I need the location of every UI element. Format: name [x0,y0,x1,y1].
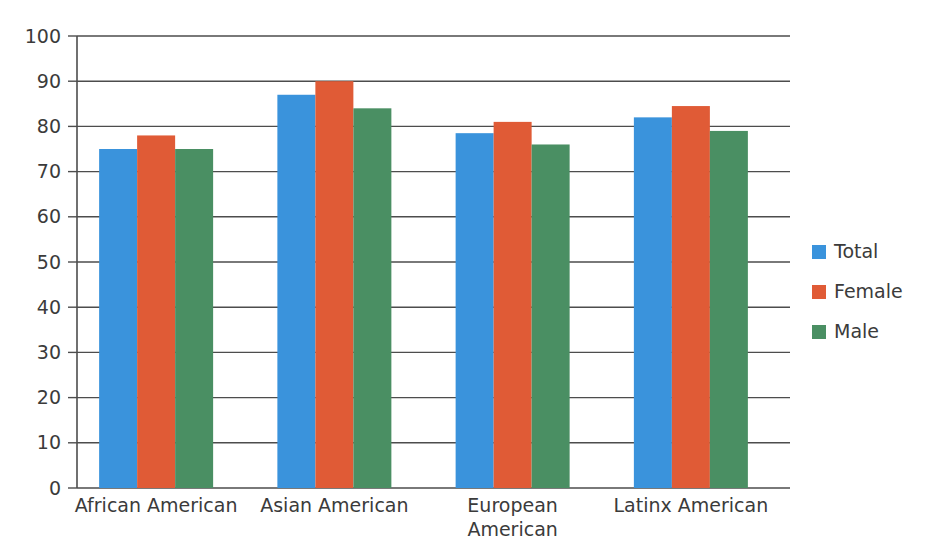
bar-male-0 [175,149,213,488]
y-tick-label: 90 [37,70,61,92]
x-category-label: Latinx American [614,494,769,516]
legend-label-total: Total [833,240,878,262]
bar-total-2 [456,133,494,488]
y-tick-label: 70 [37,160,61,182]
legend-swatch-male [812,325,826,339]
legend-label-female: Female [834,280,903,302]
bar-female-3 [672,106,710,488]
y-axis-tick-labels: 0102030405060708090100 [25,25,61,499]
bar-female-2 [494,122,532,488]
y-tick-label: 60 [37,205,61,227]
bar-male-1 [353,108,391,488]
y-tick-label: 0 [49,477,61,499]
y-tick-label: 80 [37,115,61,137]
chart-legend: TotalFemaleMale [812,240,903,342]
bar-female-1 [315,81,353,488]
bar-total-1 [277,95,315,488]
legend-label-male: Male [834,320,879,342]
x-category-label: African American [75,494,238,516]
bar-male-3 [710,131,748,488]
y-tick-label: 30 [37,341,61,363]
bar-total-3 [634,117,672,488]
chart-canvas: 0102030405060708090100 African AmericanA… [0,0,928,560]
bar-female-0 [137,135,175,488]
y-tick-label: 100 [25,25,61,47]
y-tick-label: 20 [37,386,61,408]
bar-series-group [99,81,748,488]
y-tick-label: 50 [37,251,61,273]
x-category-label: Asian American [260,494,408,516]
bar-total-0 [99,149,137,488]
y-tick-label: 40 [37,296,61,318]
bar-chart: 0102030405060708090100 African AmericanA… [0,0,928,560]
axis-tick-marks [68,36,77,488]
x-category-label: EuropeanAmerican [467,494,558,540]
legend-swatch-female [812,285,826,299]
x-axis-category-labels: African AmericanAsian AmericanEuropeanAm… [75,494,768,540]
legend-swatch-total [812,245,826,259]
y-tick-label: 10 [37,431,61,453]
bar-male-2 [532,144,570,488]
